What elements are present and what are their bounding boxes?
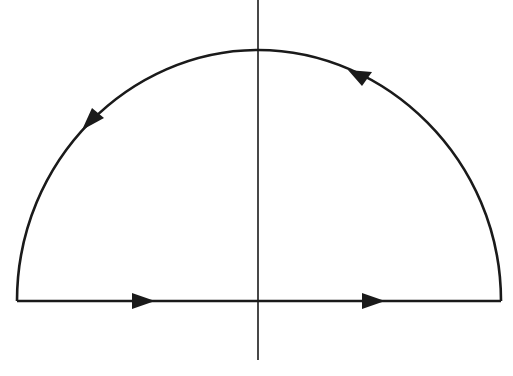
arrow-right-icon (362, 293, 385, 309)
contour-diagram (0, 0, 513, 376)
semicircle-arc (17, 50, 501, 301)
arrow-right-icon (132, 293, 155, 309)
